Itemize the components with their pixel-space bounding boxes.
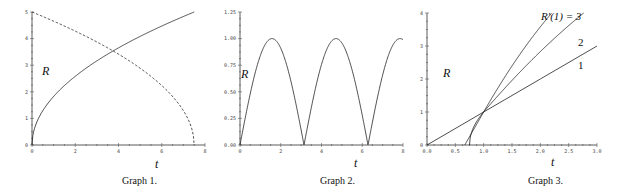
x-axis-label: t [354, 156, 358, 170]
y-tick-label: 3 [420, 43, 423, 49]
y-tick-label: 1 [420, 109, 423, 115]
curve-dashed [32, 12, 194, 145]
x-tick-label: 4 [117, 148, 120, 154]
x-tick-label: 2.0 [536, 148, 545, 154]
x-tick-label: 1.0 [479, 148, 488, 154]
caption: Graph 1. [122, 175, 157, 186]
x-tick-label: 6 [361, 148, 364, 154]
x-tick-label: 6 [160, 148, 163, 154]
y-tick-label: 4 [25, 35, 28, 41]
ticks: 024680.000.250.500.751.001.25 [224, 9, 405, 154]
y-axis-label: R [41, 64, 50, 78]
x-tick-label: 2 [279, 148, 282, 154]
x-tick-label: 3.0 [592, 148, 601, 154]
ticks: 02468012345 [25, 9, 207, 154]
x-tick-label: 0.0 [422, 148, 431, 154]
y-tick-label: 0.00 [224, 142, 236, 148]
y-tick-label: 0.25 [224, 115, 236, 121]
curve-slope-1 [427, 46, 597, 145]
y-tick-label: 2 [25, 89, 28, 95]
y-tick-label: 2 [420, 76, 423, 82]
x-tick-label: 0 [30, 148, 33, 154]
x-tick-label: 4 [320, 148, 323, 154]
y-tick-label: 1 [25, 115, 28, 121]
figure: 02468012345 R t Graph 1. 024680.000.250.… [0, 0, 620, 195]
y-tick-label: 3 [25, 62, 28, 68]
x-tick-label: 8 [203, 148, 206, 154]
x-tick-label: 2 [74, 148, 77, 154]
annotation-slope-3: R′(1) = 3 [540, 10, 582, 23]
curve-abs-sin [240, 39, 403, 145]
y-tick-label: 0.75 [224, 62, 236, 68]
caption: Graph 2. [320, 175, 355, 186]
graph-1: 02468012345 R t Graph 1. [25, 9, 207, 186]
caption: Graph 3. [528, 175, 563, 186]
curve-slope-3 [465, 13, 552, 145]
x-tick-label: 1.5 [507, 148, 516, 154]
y-tick-label: 4 [420, 10, 423, 16]
y-tick-label: 1.25 [224, 9, 236, 15]
graph-3: 0.00.51.01.52.02.53.001234 R t Graph 3. … [420, 10, 602, 186]
x-axis-label: t [551, 155, 555, 169]
y-tick-label: 0 [25, 142, 28, 148]
y-tick-label: 0 [420, 142, 423, 148]
curve-solid [32, 12, 194, 145]
x-axis-label: t [155, 157, 159, 171]
curve-slope-2 [470, 13, 584, 145]
y-tick-label: 1.00 [224, 35, 236, 41]
y-tick-label: 0.50 [224, 89, 236, 95]
x-tick-label: 8 [401, 148, 404, 154]
annotation-slope-2: 2 [578, 36, 584, 48]
graph-2: 024680.000.250.500.751.001.25 R t Graph … [224, 9, 405, 186]
x-tick-label: 0 [238, 148, 241, 154]
annotation-slope-1: 1 [578, 59, 584, 71]
y-axis-label: R [240, 67, 249, 81]
x-tick-label: 0.5 [451, 148, 460, 154]
y-axis-label: R [442, 66, 451, 80]
y-tick-label: 5 [25, 9, 28, 15]
x-tick-label: 2.5 [564, 148, 573, 154]
